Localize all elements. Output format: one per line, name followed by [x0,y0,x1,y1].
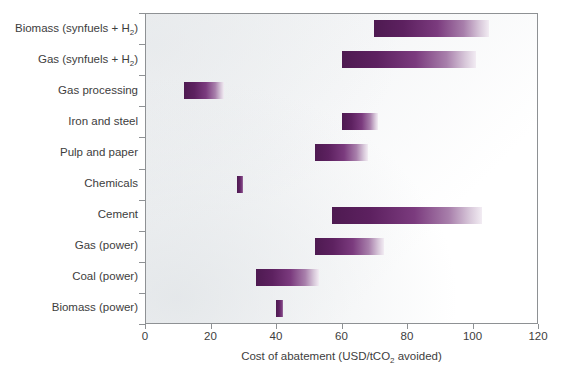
y-axis-tick [139,293,145,294]
category-label: Biomass (synfuels + H2) [0,23,138,35]
bar-range[interactable] [342,51,476,68]
category-label: Gas processing [0,85,138,97]
x-axis-tick-label: 40 [256,331,296,343]
y-axis-tick [139,106,145,107]
x-axis-tick-label: 120 [518,331,558,343]
x-axis-tick [342,324,343,329]
category-label: Gas (synfuels + H2) [0,54,138,66]
x-axis-tick-label: 20 [191,331,231,343]
x-axis-title: Cost of abatement (USD/tCO2 avoided) [145,351,538,363]
category-label: Gas (power) [0,240,138,252]
y-axis-tick [139,13,145,14]
bar-range[interactable] [374,20,489,37]
category-label: Chemicals [0,178,138,190]
bar-range[interactable] [332,207,483,224]
category-label: Cement [0,209,138,221]
category-label: Pulp and paper [0,147,138,159]
bar-range[interactable] [342,113,378,130]
y-axis-tick [139,44,145,45]
x-axis-tick [145,324,146,329]
x-axis-tick [276,324,277,329]
x-axis-tick-label: 80 [387,331,427,343]
bar-range[interactable] [256,269,318,286]
y-axis-tick [139,262,145,263]
x-axis-tick [473,324,474,329]
bar-range[interactable] [315,238,384,255]
bar-range[interactable] [237,176,244,193]
bar-range[interactable] [276,300,283,317]
x-axis-tick-label: 100 [453,331,493,343]
x-axis-tick-label: 60 [322,331,362,343]
bar-range[interactable] [184,82,223,99]
bar-range[interactable] [315,144,367,161]
y-axis-tick [139,75,145,76]
chart-figure: Biomass (synfuels + H2)Gas (synfuels + H… [0,0,564,376]
y-axis-tick [139,137,145,138]
x-axis-tick [211,324,212,329]
y-axis-tick [139,200,145,201]
y-axis-tick [139,231,145,232]
x-axis-tick [538,324,539,329]
x-axis-tick-label: 0 [125,331,165,343]
category-label: Biomass (power) [0,302,138,314]
x-axis-tick [407,324,408,329]
category-label: Coal (power) [0,271,138,283]
category-label: Iron and steel [0,116,138,128]
y-axis-tick [139,169,145,170]
